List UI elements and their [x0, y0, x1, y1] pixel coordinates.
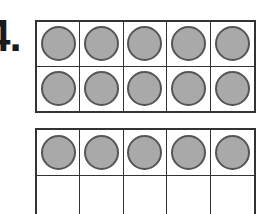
- frame-cell: [37, 22, 80, 67]
- counter-icon: [84, 135, 119, 170]
- frame-cell: [80, 130, 123, 176]
- counter-icon: [127, 71, 162, 106]
- frame-cell: [167, 22, 210, 67]
- ten-frame-1: [35, 20, 256, 113]
- counter-icon: [41, 71, 76, 106]
- empty-frame-cell: [211, 176, 254, 214]
- frame-cell: [124, 130, 167, 176]
- counter-icon: [215, 71, 250, 106]
- empty-frame-cell: [37, 176, 80, 214]
- problem-number: 4.: [0, 14, 21, 58]
- counter-icon: [215, 26, 250, 61]
- counter-icon: [127, 26, 162, 61]
- frame-cell: [80, 22, 123, 67]
- ten-frame-2: [35, 128, 256, 214]
- frame-cell: [211, 130, 254, 176]
- frame-cell: [211, 67, 254, 112]
- frame-cell: [37, 67, 80, 112]
- frame-cell: [124, 22, 167, 67]
- frame-cell: [167, 130, 210, 176]
- counter-icon: [127, 135, 162, 170]
- counter-icon: [171, 26, 206, 61]
- counter-icon: [84, 26, 119, 61]
- counter-icon: [171, 135, 206, 170]
- counter-icon: [84, 71, 119, 106]
- counter-icon: [41, 135, 76, 170]
- counter-icon: [171, 71, 206, 106]
- counter-icon: [41, 26, 76, 61]
- empty-frame-cell: [124, 176, 167, 214]
- frame-cell: [80, 67, 123, 112]
- counter-icon: [215, 135, 250, 170]
- empty-frame-cell: [80, 176, 123, 214]
- frame-cell: [37, 130, 80, 176]
- empty-frame-cell: [167, 176, 210, 214]
- frame-cell: [211, 22, 254, 67]
- frame-cell: [124, 67, 167, 112]
- frame-cell: [167, 67, 210, 112]
